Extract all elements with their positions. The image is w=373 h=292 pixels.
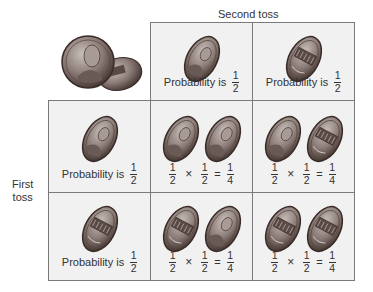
coin-tails-icon: [305, 201, 345, 257]
outcome-heads-tails: 12 × 12 = 14: [252, 100, 355, 193]
coin-heads-icon: [203, 111, 243, 167]
probability-equation: 12 × 12 = 14: [253, 250, 354, 274]
pennies-illustration: [48, 24, 148, 98]
coin-heads-icon: [263, 111, 303, 167]
coin-heads-icon: [203, 201, 243, 257]
probability-text: Probability is: [266, 76, 328, 88]
coin-tails-icon: [305, 111, 345, 167]
coin-tails-icon: [80, 201, 120, 257]
probability-text: Probability is: [62, 168, 124, 180]
coin-heads-icon: [80, 111, 120, 167]
first-toss-label: First toss: [12, 178, 33, 204]
probability-equation: 12 × 12 = 14: [151, 250, 252, 274]
first-toss-label-line1: First: [12, 178, 33, 191]
col-header-heads: Probability is 12: [150, 22, 253, 101]
probability-equation: 12 × 12 = 14: [151, 162, 252, 186]
probability-text: Probability is: [62, 256, 124, 268]
row-header-heads: Probability is 12: [48, 100, 151, 193]
probability-equation: 12 × 12 = 14: [253, 162, 354, 186]
probability-text: Probability is: [164, 76, 226, 88]
coin-tails-icon: [161, 201, 201, 257]
row-header-tails: Probability is 12: [48, 192, 151, 281]
first-toss-label-line2: toss: [12, 191, 33, 204]
outcome-tails-tails: 12 × 12 = 14: [252, 192, 355, 281]
fraction: 12: [232, 70, 239, 94]
col-header-tails: Probability is 12: [252, 22, 355, 101]
fraction: 12: [130, 250, 137, 274]
fraction: 12: [130, 162, 137, 186]
fraction: 12: [334, 70, 341, 94]
outcome-tails-heads: 12 × 12 = 14: [150, 192, 253, 281]
coin-tails-icon: [263, 201, 303, 257]
outcome-heads-heads: 12 × 12 = 14: [150, 100, 253, 193]
coin-heads-icon: [161, 111, 201, 167]
second-toss-label: Second toss: [218, 8, 279, 20]
pennies-icon: [48, 24, 148, 98]
